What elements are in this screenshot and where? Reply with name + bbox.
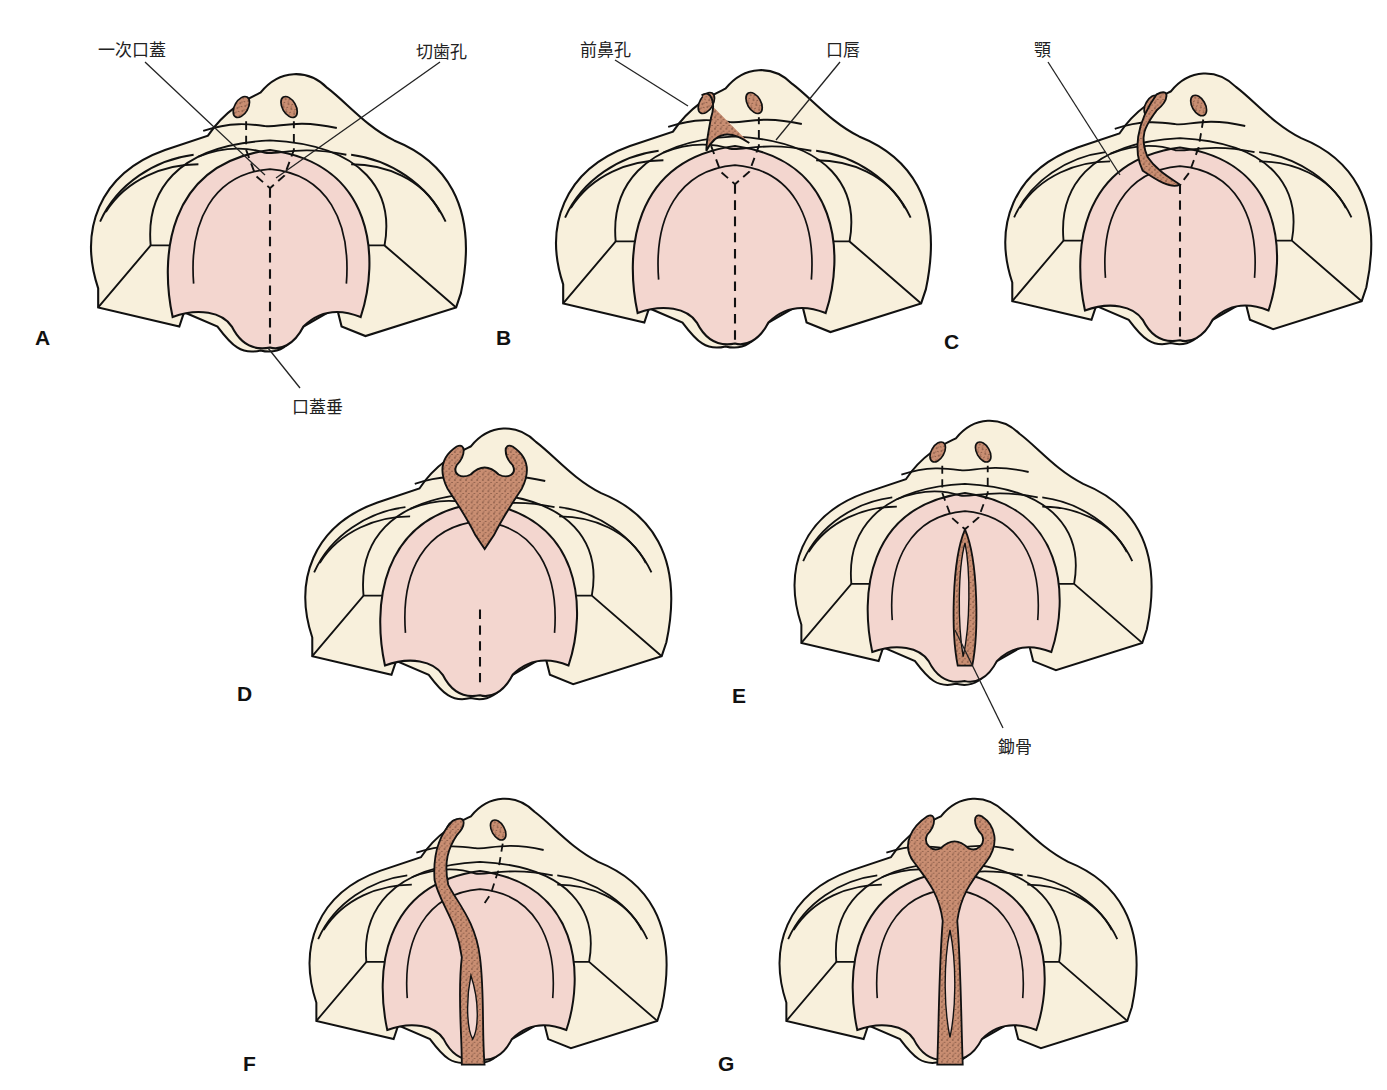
label-uvula: 口蓋垂 (292, 393, 343, 418)
panel-f (280, 780, 680, 1080)
label-lip: 口唇 (826, 36, 860, 61)
panel-letter-c: C (944, 330, 959, 354)
panel-a (60, 62, 480, 362)
panel-letter-a: A (35, 326, 50, 350)
panel-g (750, 780, 1150, 1080)
panel-letter-e: E (732, 684, 746, 708)
panel-d (275, 418, 685, 708)
palate-diagram-bilateral-cleft-lip-palate (750, 780, 1150, 1080)
panel-e (765, 402, 1165, 702)
palate-diagram-unilateral-cleft-lip (525, 58, 945, 358)
panel-letter-g: G (718, 1052, 734, 1076)
panel-letter-b: B (496, 326, 511, 350)
panel-letter-d: D (237, 682, 252, 706)
palate-diagram-unilateral-cleft-jaw (975, 58, 1385, 358)
panel-c (975, 58, 1385, 358)
palate-diagram-normal (60, 62, 480, 362)
panel-b (525, 58, 945, 358)
palate-diagram-unilateral-cleft-lip-palate (280, 780, 680, 1080)
label-vomer: 鋤骨 (998, 733, 1032, 758)
panel-letter-f: F (243, 1052, 256, 1076)
label-jaw: 顎 (1034, 36, 1051, 61)
label-nostril: 前鼻孔 (580, 36, 631, 61)
palate-diagram-bilateral-cleft-jaw (275, 418, 685, 708)
label-primary-palate: 一次口蓋 (98, 36, 166, 61)
label-incisive-foramen: 切歯孔 (416, 38, 467, 63)
palate-diagram-cleft-palate (765, 402, 1165, 702)
